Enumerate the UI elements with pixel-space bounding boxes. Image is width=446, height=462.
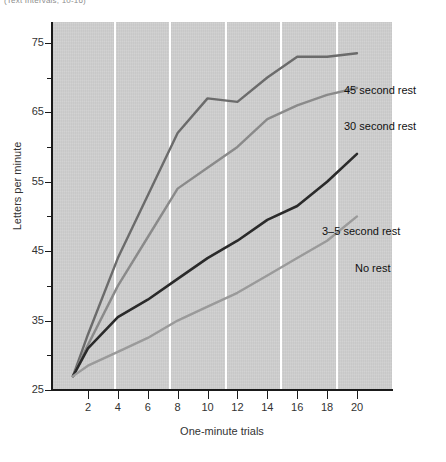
chart-figure: (Text Intervals, 10-16) 253545556575 246…	[0, 0, 446, 462]
y-axis-title: Letters per minute	[11, 106, 23, 266]
x-axis-title: One-minute trials	[52, 425, 392, 437]
series-line-30-second-rest	[73, 88, 357, 376]
series-label-30-second-rest: 30 second rest	[344, 120, 416, 132]
series-line-45-second-rest	[73, 53, 357, 376]
series-line-no-rest	[73, 216, 357, 376]
series-label-3-5-second-rest: 3–5 second rest	[322, 225, 400, 237]
series-label-45-second-rest: 45 second rest	[344, 84, 416, 96]
series-label-no-rest: No rest	[355, 262, 390, 274]
